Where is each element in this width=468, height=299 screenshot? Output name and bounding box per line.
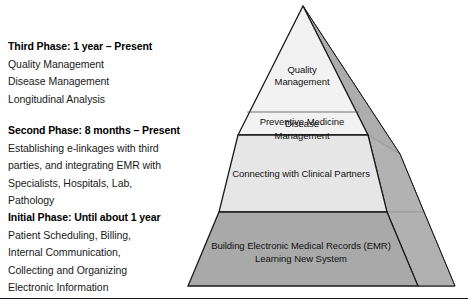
pyramid-label-top-tier: Quality Management Disease Management	[232, 51, 372, 155]
pyramid-label-base-tier: Building Electronic Medical Records (EMR…	[160, 240, 442, 265]
pyramid-label-middle-tier: Connecting with Clinical Partners	[190, 168, 412, 181]
diagram-canvas: Third Phase: 1 year – Present Quality Ma…	[0, 0, 468, 299]
pyramid-label-quality-management: Quality Management	[232, 64, 372, 89]
pyramid-label-preventive-medicine: Preventive Medicine	[232, 116, 372, 129]
